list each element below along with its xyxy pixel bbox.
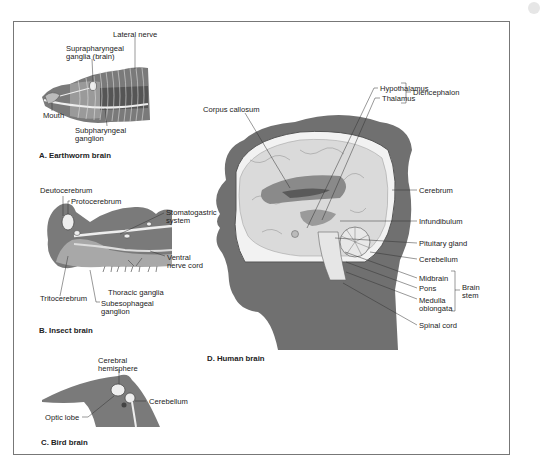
label-oblongata: oblongata: [419, 304, 452, 313]
label-spinal-cord: Spinal cord: [419, 321, 457, 330]
label-thoracic-ganglia: Thoracic ganglia: [108, 288, 164, 297]
label-tritocerebrum: Tritocerebrum: [40, 294, 87, 303]
caption-insect-brain: B. Insect brain: [39, 326, 93, 335]
label-corpus-callosum: Corpus callosum: [203, 105, 260, 114]
label-mouth: Mouth: [43, 111, 64, 120]
label-infundibulum: Infundibulum: [419, 217, 462, 226]
label-subesophageal-ganglion: ganglion: [101, 307, 130, 316]
label-midbrain: Midbrain: [419, 274, 448, 283]
label-bird-cerebellum: Cerebellum: [149, 397, 188, 406]
label-hemisphere: hemisphere: [98, 364, 138, 373]
label-diencephalon: Diencephalon: [413, 88, 459, 97]
cerebellum-shape: [340, 227, 370, 257]
label-lateral-nerve: Lateral nerve: [113, 30, 157, 39]
label-thalamus: Thalamus: [382, 94, 415, 103]
label-cerebrum: Cerebrum: [419, 186, 453, 195]
label-nerve-cord: nerve cord: [167, 261, 203, 270]
label-pituitary-gland: Pituitary gland: [419, 239, 467, 248]
label-human-cerebellum: Cerebellum: [419, 255, 458, 264]
label-ganglia-brain: ganglia (brain): [66, 52, 115, 61]
label-stomatogastric-system: system: [166, 216, 190, 225]
caption-human-brain: D. Human brain: [207, 354, 265, 363]
label-protocerebrum: Protocerebrum: [71, 197, 121, 206]
caption-bird-brain: C. Bird brain: [41, 438, 88, 447]
label-stem: stem: [462, 291, 478, 300]
caption-earthworm-brain: A. Earthworm brain: [39, 151, 111, 160]
human-head-illustration: [216, 115, 412, 350]
label-deutocerebrum: Deutocerebrum: [40, 186, 92, 195]
figure-artwork: [0, 0, 542, 469]
insect-illustration: [47, 204, 172, 272]
label-subpharyngeal-ganglion: ganglion: [75, 134, 104, 143]
label-pons: Pons: [419, 284, 436, 293]
label-optic-lobe: Optic lobe: [45, 413, 79, 422]
